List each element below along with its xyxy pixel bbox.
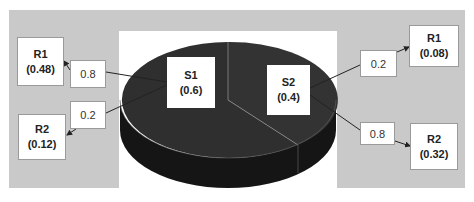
result-s1-r1-value: (0.48) (26, 62, 55, 77)
slice-s2-name: S2 (282, 75, 295, 90)
result-s1-r1: R1 (0.48) (17, 37, 64, 86)
prob-s1-r2: 0.2 (70, 101, 106, 129)
result-s1-r1-label: R1 (33, 47, 47, 62)
slice-s1-name: S1 (184, 68, 197, 83)
prob-s1-r1: 0.8 (70, 60, 106, 88)
result-s2-r2-value: (0.32) (420, 147, 449, 162)
slice-label-s2: S2 (0.4) (267, 65, 310, 115)
result-s2-r1-label: R1 (427, 31, 441, 46)
result-s1-r2-label: R2 (35, 122, 49, 137)
prob-s2-r1: 0.2 (360, 50, 397, 77)
result-s2-r1-value: (0.08) (420, 46, 449, 61)
result-s2-r1: R1 (0.08) (409, 25, 459, 67)
prob-s2-r2: 0.8 (360, 122, 395, 145)
result-s1-r2: R2 (0.12) (18, 114, 66, 160)
slice-s2-value: (0.4) (277, 90, 300, 105)
result-s2-r2: R2 (0.32) (410, 123, 458, 170)
slice-label-s1: S1 (0.6) (167, 57, 215, 108)
result-s2-r2-label: R2 (427, 132, 441, 147)
slice-s1-value: (0.6) (180, 83, 203, 98)
result-s1-r2-value: (0.12) (28, 137, 57, 152)
